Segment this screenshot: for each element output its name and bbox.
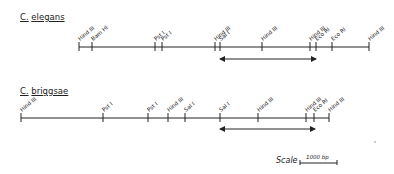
site-label: Sal I [218,100,231,112]
site-label: Hind III [166,96,185,113]
speck-dot [374,141,376,143]
site-label: Hind III [256,96,275,113]
scale-value: 1000 bp [306,154,329,160]
site-label: Hind III [327,96,346,113]
site-label: Hind III [19,96,38,113]
scale-label: Scale [276,156,298,165]
site-label: Eco RI [330,26,347,42]
site-label: Hind III [260,25,279,42]
site-label: Sal I [183,100,196,112]
site-label: Pst I [146,100,159,112]
site-label: Hind III [367,25,386,42]
site-label: Pst I [101,100,114,112]
restriction-map-diagram: Hind IIIBam HIPst IPst IHind IIISal IHin… [0,0,394,174]
